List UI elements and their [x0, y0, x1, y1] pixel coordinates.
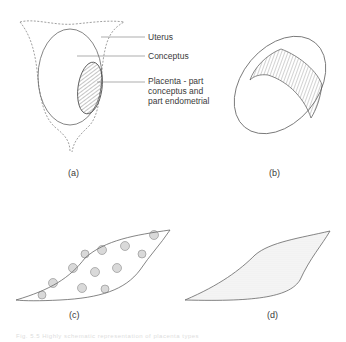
figure-caption: Fig. 5.5 Highly schematic representation… [16, 333, 199, 339]
panel-d-drawing [185, 231, 330, 300]
panel-c-drawing [16, 230, 170, 301]
label-placenta-1: Placenta - part [148, 76, 203, 86]
label-uterus: Uterus [148, 32, 173, 42]
label-placenta-3: part endometrial [148, 96, 209, 106]
panel-label-b: (b) [269, 168, 280, 178]
label-placenta-2: conceptus and [148, 86, 203, 96]
panel-label-d: (d) [267, 310, 278, 320]
panel-label-c: (c) [69, 310, 80, 320]
label-conceptus: Conceptus [148, 51, 189, 61]
panel-label-a: (a) [68, 168, 79, 178]
panel-a-drawing [20, 21, 145, 152]
panel-b-drawing [216, 18, 345, 151]
